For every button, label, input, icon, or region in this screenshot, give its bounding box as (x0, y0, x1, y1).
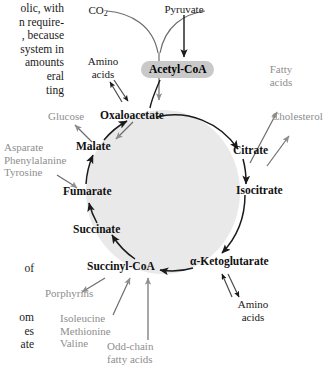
co2-text: CO (88, 4, 103, 16)
glucose-label: Glucose (48, 110, 84, 123)
alpha-ketoglutarate-label: α-Ketoglutarate (190, 255, 269, 268)
porphyrins-label: Porphyrins (45, 287, 93, 300)
acetyl-coa-label: Acetyl-CoA (141, 61, 214, 78)
arc-pyruvate-to-junction (160, 11, 205, 53)
succinyl-coa-label: Succinyl-CoA (87, 260, 155, 273)
co2-subscript: 2 (104, 9, 108, 18)
malate-label: Malate (76, 140, 110, 153)
arrow-amino-acids-to-akg-bottom (222, 274, 232, 297)
succinate-label: Succinate (73, 223, 120, 236)
arrow-akg-to-amino-acids-bottom (228, 274, 239, 297)
citrate-label: Citrate (233, 144, 268, 157)
asparate-phenylalanine-tyrosine-label: Asparate Phenylalanine Tyrosine (4, 141, 66, 179)
cholesterol-label: Cholesterol (272, 110, 323, 123)
akg-amino-acids-exchange (222, 274, 239, 297)
isocitrate-label: Isocitrate (236, 184, 283, 197)
pyruvate-label: Pyruvate (152, 3, 216, 16)
amino-acids-oaa-exchange (110, 80, 128, 102)
co2-label: CO2 (78, 4, 118, 20)
fatty-acids-label: Fatty acids (258, 63, 304, 88)
arrow-ile-met-val-to-succinylcoa (113, 278, 130, 315)
oxaloacetate-label: Oxaloacetate (100, 109, 164, 122)
fumarate-label: Fumarate (63, 185, 112, 198)
arrow-citrate-to-isocitrate (243, 159, 246, 184)
odd-chain-fatty-acids-label: Odd-chain fatty acids (107, 340, 153, 365)
arrow-oaa-to-amino-acids-top (110, 82, 122, 102)
figure-canvas: olic, with n require- , because system i… (0, 0, 326, 366)
isoleucine-methionine-valine-label: Isoleucine Methionine Valine (60, 312, 111, 350)
arrow-citrate-to-cholesterol (267, 136, 289, 166)
arrow-amino-acids-to-oaa-top (114, 80, 128, 101)
amino-acids-bottom-label: Amino acids (228, 298, 278, 323)
amino-acids-top-label: Amino acids (78, 55, 128, 80)
